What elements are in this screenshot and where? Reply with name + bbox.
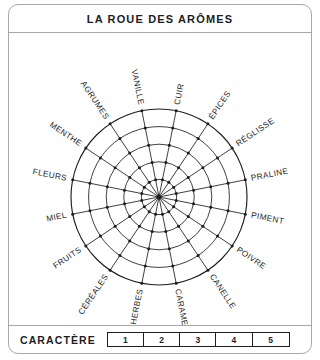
wheel-node[interactable] bbox=[154, 213, 157, 216]
wheel-node[interactable] bbox=[109, 122, 112, 125]
aroma-wheel-area: CUIRÉPICESRÉGLISSEPRALINEPIMENTPOIVRECAN… bbox=[9, 32, 312, 325]
wheel-node[interactable] bbox=[151, 230, 154, 233]
wheel-node[interactable] bbox=[143, 205, 146, 208]
wheel-label: PRALINE bbox=[250, 167, 289, 183]
wheel-node[interactable] bbox=[197, 137, 200, 140]
wheel-node[interactable] bbox=[123, 189, 126, 192]
wheel-node[interactable] bbox=[209, 185, 212, 188]
wheel-label: FRUITS bbox=[52, 245, 84, 270]
wheel-node[interactable] bbox=[244, 213, 247, 216]
wheel-node[interactable] bbox=[177, 225, 180, 228]
wheel-node[interactable] bbox=[147, 247, 150, 250]
wheel-node[interactable] bbox=[140, 109, 143, 112]
wheel-node[interactable] bbox=[227, 209, 230, 212]
wheel-node[interactable] bbox=[138, 166, 141, 169]
wheel-node[interactable] bbox=[177, 166, 180, 169]
wheel-label: MIEL bbox=[46, 211, 68, 224]
wheel-node[interactable] bbox=[168, 247, 171, 250]
wheel-node[interactable] bbox=[151, 161, 154, 164]
wheel-node[interactable] bbox=[106, 185, 109, 188]
wheel-node[interactable] bbox=[187, 215, 190, 218]
wheel-node[interactable] bbox=[128, 215, 131, 218]
wheel-node[interactable] bbox=[99, 235, 102, 238]
wheel-node[interactable] bbox=[171, 126, 174, 129]
wheel-node[interactable] bbox=[175, 282, 178, 285]
wheel-node[interactable] bbox=[231, 244, 234, 247]
wheel-node[interactable] bbox=[148, 181, 151, 184]
wheel-node[interactable] bbox=[84, 147, 87, 150]
caractere-scale-box[interactable]: 4 bbox=[216, 333, 252, 346]
caractere-scale-box[interactable]: 1 bbox=[108, 333, 144, 346]
wheel-node[interactable] bbox=[201, 166, 204, 169]
wheel-node[interactable] bbox=[114, 166, 117, 169]
wheel-node[interactable] bbox=[140, 199, 143, 202]
wheel-label: PIMENT bbox=[250, 211, 284, 226]
wheel-node[interactable] bbox=[197, 254, 200, 257]
wheel-node[interactable] bbox=[71, 213, 74, 216]
wheel-node[interactable] bbox=[172, 205, 175, 208]
wheel-node[interactable] bbox=[128, 176, 131, 179]
wheel-node[interactable] bbox=[118, 254, 121, 257]
aroma-wheel-chart: CUIRÉPICESRÉGLISSEPRALINEPIMENTPOIVRECAN… bbox=[9, 32, 312, 325]
wheel-node[interactable] bbox=[140, 282, 143, 285]
wheel-node[interactable] bbox=[227, 182, 230, 185]
wheel-label: CÉRÉALES bbox=[76, 272, 110, 317]
wheel-node[interactable] bbox=[192, 202, 195, 205]
wheel-node[interactable] bbox=[88, 182, 91, 185]
wheel-node[interactable] bbox=[161, 178, 164, 181]
wheel-node[interactable] bbox=[128, 152, 131, 155]
wheel-node[interactable] bbox=[244, 178, 247, 181]
wheel-node[interactable] bbox=[154, 178, 157, 181]
wheel-node[interactable] bbox=[148, 210, 151, 213]
wheel-node[interactable] bbox=[118, 137, 121, 140]
wheel-node[interactable] bbox=[144, 126, 147, 129]
wheel-node[interactable] bbox=[164, 161, 167, 164]
wheel-node[interactable] bbox=[143, 186, 146, 189]
wheel-node[interactable] bbox=[161, 213, 164, 216]
wheel-node[interactable] bbox=[144, 265, 147, 268]
wheel-node[interactable] bbox=[109, 269, 112, 272]
caractere-scale-box[interactable]: 2 bbox=[144, 333, 180, 346]
wheel-node[interactable] bbox=[123, 202, 126, 205]
wheel-node[interactable] bbox=[209, 206, 212, 209]
wheel-label: CANELLE bbox=[208, 272, 238, 310]
caractere-scale-box[interactable]: 3 bbox=[180, 333, 216, 346]
wheel-node[interactable] bbox=[192, 189, 195, 192]
wheel-label: POIVRE bbox=[235, 245, 268, 271]
wheel-node[interactable] bbox=[71, 178, 74, 181]
wheel-node[interactable] bbox=[206, 269, 209, 272]
caractere-label: CARACTÈRE bbox=[20, 334, 96, 346]
wheel-node[interactable] bbox=[147, 144, 150, 147]
wheel-node[interactable] bbox=[175, 192, 178, 195]
wheel-node[interactable] bbox=[138, 225, 141, 228]
wheel-node[interactable] bbox=[216, 235, 219, 238]
wheel-node[interactable] bbox=[84, 244, 87, 247]
wheel-node[interactable] bbox=[88, 209, 91, 212]
wheel-label: AGRUMES bbox=[79, 79, 111, 121]
caractere-scale-box[interactable]: 5 bbox=[253, 333, 289, 346]
wheel-label: VANILLE bbox=[130, 69, 146, 106]
wheel-node[interactable] bbox=[172, 186, 175, 189]
wheel-node[interactable] bbox=[99, 156, 102, 159]
wheel-node[interactable] bbox=[231, 147, 234, 150]
wheel-node[interactable] bbox=[216, 156, 219, 159]
wheel-node[interactable] bbox=[206, 122, 209, 125]
wheel-node[interactable] bbox=[201, 225, 204, 228]
wheel-node[interactable] bbox=[187, 239, 190, 242]
wheel-node[interactable] bbox=[140, 192, 143, 195]
card-header: LA ROUE DES ARÔMES bbox=[9, 5, 311, 32]
wheel-node[interactable] bbox=[168, 144, 171, 147]
wheel-node[interactable] bbox=[128, 239, 131, 242]
wheel-node[interactable] bbox=[171, 265, 174, 268]
aroma-wheel-card: LA ROUE DES ARÔMES CUIRÉPICESRÉGLISSEPRA… bbox=[8, 4, 312, 354]
wheel-node[interactable] bbox=[175, 199, 178, 202]
wheel-node[interactable] bbox=[106, 206, 109, 209]
wheel-label: CUIR bbox=[173, 83, 186, 106]
wheel-node[interactable] bbox=[175, 109, 178, 112]
wheel-node[interactable] bbox=[187, 176, 190, 179]
wheel-node[interactable] bbox=[114, 225, 117, 228]
wheel-node[interactable] bbox=[167, 210, 170, 213]
wheel-node[interactable] bbox=[164, 230, 167, 233]
wheel-node[interactable] bbox=[187, 152, 190, 155]
wheel-node[interactable] bbox=[167, 181, 170, 184]
